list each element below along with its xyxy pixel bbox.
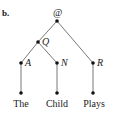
root-label: @ [53, 7, 62, 18]
node-q-label: Q [42, 36, 50, 47]
root-node [55, 19, 59, 23]
node-a [19, 61, 23, 65]
node-q [36, 40, 40, 44]
leaf-child [55, 91, 59, 95]
leaf-child-label: Child [46, 98, 68, 109]
leaf-plays [91, 91, 95, 95]
leaf-the [19, 91, 23, 95]
node-n-label: N [60, 57, 69, 68]
tree-diagram: b. @ Q A N R The Child Plays [0, 0, 113, 114]
node-r-label: R [96, 57, 103, 68]
node-r [91, 61, 95, 65]
panel-label: b. [2, 8, 9, 18]
leaf-plays-label: Plays [83, 98, 105, 109]
node-a-label: A [24, 57, 32, 68]
leaf-the-label: The [13, 98, 29, 109]
node-n [55, 61, 59, 65]
